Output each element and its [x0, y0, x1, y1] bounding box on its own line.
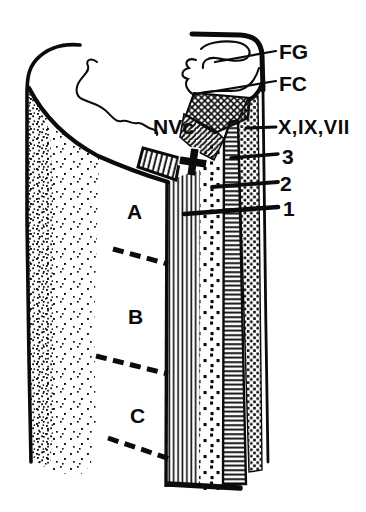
diagram-canvas: FG FC X,IX,VII 3 2 1 NVc A B C	[0, 0, 366, 512]
right-reference-line	[263, 90, 268, 462]
label-fc: FC	[279, 72, 307, 95]
segment-dashes	[96, 249, 170, 459]
leader-nerves	[246, 127, 276, 128]
label-band3: 3	[282, 145, 294, 168]
band-square-dots	[199, 140, 224, 490]
label-band1: 1	[283, 197, 295, 220]
dash-separator-bc	[96, 356, 168, 374]
label-region-b: B	[128, 305, 143, 328]
band-vertical-lines	[166, 170, 200, 487]
foregut-pocket-outline	[201, 41, 250, 68]
label-region-c: C	[130, 404, 145, 427]
dash-separator-c-end	[108, 438, 170, 459]
label-region-a: A	[127, 200, 142, 223]
dash-separator-ab	[113, 249, 168, 264]
fc-pocket-left-outline	[182, 59, 196, 95]
left-wall-stipple-band	[27, 88, 99, 477]
band-vertical-lines-left-edge	[166, 183, 167, 487]
inner-wavy-contour	[77, 59, 158, 135]
diagram-figure: FG FC X,IX,VII 3 2 1 NVc A B C	[0, 0, 366, 512]
leader-fg	[215, 51, 276, 62]
label-nvc: NVc	[153, 115, 194, 138]
label-band2: 2	[280, 172, 292, 195]
label-nerves-x-ix-vii: X,IX,VII	[278, 116, 350, 138]
fc-pocket-right-outline	[194, 68, 259, 95]
label-fg: FG	[279, 40, 308, 63]
